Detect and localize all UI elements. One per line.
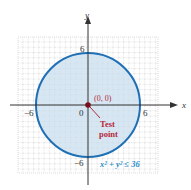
x-axis-arrow-icon — [170, 102, 178, 108]
x-tick-6: 6 — [143, 108, 148, 118]
graph: x y −6 0 6 6 −6 (0, 0) Test point x² + y… — [0, 0, 191, 190]
x-tick-0: 0 — [79, 108, 84, 118]
x-axis-label: x — [181, 100, 186, 110]
test-point-marker — [85, 102, 91, 108]
test-label-line2: point — [99, 129, 118, 139]
y-axis-label: y — [84, 10, 89, 20]
test-label-line1: Test — [100, 119, 115, 129]
x-tick-neg6: −6 — [24, 108, 34, 118]
test-point-coords: (0, 0) — [94, 94, 112, 103]
y-tick-neg6: −6 — [74, 158, 84, 168]
y-tick-6: 6 — [80, 44, 85, 54]
inequality-label: x² + y² ≤ 36 — [99, 159, 140, 169]
